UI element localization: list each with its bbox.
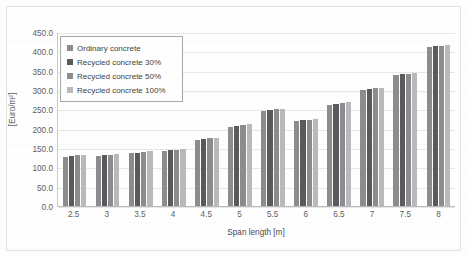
bar <box>261 111 266 206</box>
bar <box>333 104 338 206</box>
bar-group <box>290 33 323 206</box>
bar <box>63 157 68 206</box>
bar <box>300 120 305 206</box>
bar <box>307 120 312 206</box>
bar <box>400 74 405 206</box>
bar <box>69 156 74 206</box>
bar <box>102 155 107 206</box>
legend-item-label: Recycled concrete 30% <box>77 58 161 67</box>
chart-figure: [Euro/m²] 0.050.0100.0150.0200.0250.0300… <box>0 0 468 259</box>
bar <box>313 119 318 206</box>
x-axis-tick: 6 <box>289 210 322 224</box>
bar <box>379 88 384 206</box>
bar <box>433 46 438 206</box>
bar <box>294 121 299 206</box>
bar <box>340 103 345 206</box>
bar <box>81 155 86 206</box>
chart-legend: Ordinary concreteRecycled concrete 30%Re… <box>60 36 183 102</box>
bar-group <box>256 33 289 206</box>
bar-group <box>356 33 389 206</box>
bar-group <box>389 33 422 206</box>
x-axis-tick: 7 <box>356 210 389 224</box>
x-axis-tick: 2.5 <box>57 210 90 224</box>
bar <box>234 126 239 206</box>
bar <box>141 152 146 206</box>
x-axis-tick: 8 <box>422 210 455 224</box>
legend-item-label: Ordinary concrete <box>77 44 141 53</box>
bar <box>360 90 365 206</box>
bar <box>135 153 140 206</box>
y-axis-tick: 0.0 <box>7 203 53 212</box>
bar <box>75 155 80 206</box>
x-axis-tick: 6.5 <box>322 210 355 224</box>
bar <box>373 88 378 206</box>
x-axis-tick: 4 <box>157 210 190 224</box>
x-axis-tick-labels: 2.533.544.555.566.577.58 <box>57 210 455 224</box>
legend-item[interactable]: Ordinary concrete <box>67 41 177 55</box>
bar <box>240 125 245 206</box>
gridline <box>58 207 455 208</box>
bar <box>247 124 252 206</box>
bar <box>147 151 152 206</box>
bar <box>280 109 285 206</box>
bar <box>327 105 332 206</box>
x-axis-tick: 3.5 <box>123 210 156 224</box>
bar <box>445 45 450 206</box>
y-axis-tick: 350.0 <box>7 67 53 76</box>
bar <box>162 151 167 206</box>
x-axis-tick: 3 <box>90 210 123 224</box>
x-axis-tick: 5.5 <box>256 210 289 224</box>
bar <box>195 140 200 207</box>
bar <box>207 138 212 206</box>
bar <box>108 155 113 206</box>
bar-group <box>422 33 455 206</box>
y-axis-tick: 250.0 <box>7 106 53 115</box>
legend-swatch-icon <box>67 59 73 65</box>
bar <box>201 139 206 206</box>
bar <box>129 153 134 206</box>
bar <box>393 75 398 206</box>
legend-item[interactable]: Recycled concrete 50% <box>67 69 177 83</box>
bar <box>346 102 351 206</box>
bar <box>228 127 233 206</box>
bar <box>180 149 185 206</box>
bar <box>214 138 219 206</box>
x-axis-tick: 5 <box>223 210 256 224</box>
legend-swatch-icon <box>67 87 73 93</box>
legend-swatch-icon <box>67 45 73 51</box>
bar <box>412 73 417 206</box>
bar <box>168 150 173 206</box>
x-axis-title-label: Span length [m] <box>57 228 455 237</box>
legend-item[interactable]: Recycled concrete 100% <box>67 83 177 97</box>
x-axis-tick: 7.5 <box>389 210 422 224</box>
legend-swatch-icon <box>67 73 73 79</box>
bar <box>96 156 101 206</box>
y-axis-tick: 200.0 <box>7 125 53 134</box>
bar <box>367 89 372 206</box>
x-axis-tick: 4.5 <box>190 210 223 224</box>
bar-group <box>223 33 256 206</box>
bar <box>427 47 432 206</box>
bar-group <box>190 33 223 206</box>
bar <box>174 150 179 206</box>
bar <box>114 154 119 206</box>
y-axis-tick-labels: 0.050.0100.0150.0200.0250.0300.0350.0400… <box>3 33 53 207</box>
bar-group <box>323 33 356 206</box>
bar <box>406 74 411 206</box>
legend-item[interactable]: Recycled concrete 30% <box>67 55 177 69</box>
y-axis-tick: 450.0 <box>7 29 53 38</box>
y-axis-tick: 400.0 <box>7 48 53 57</box>
bar <box>439 46 444 206</box>
y-axis-tick: 50.0 <box>7 183 53 192</box>
bar <box>274 109 279 206</box>
bar <box>267 110 272 206</box>
y-axis-tick: 100.0 <box>7 164 53 173</box>
legend-item-label: Recycled concrete 50% <box>77 72 161 81</box>
legend-item-label: Recycled concrete 100% <box>77 86 166 95</box>
y-axis-tick: 300.0 <box>7 87 53 96</box>
y-axis-tick: 150.0 <box>7 145 53 154</box>
